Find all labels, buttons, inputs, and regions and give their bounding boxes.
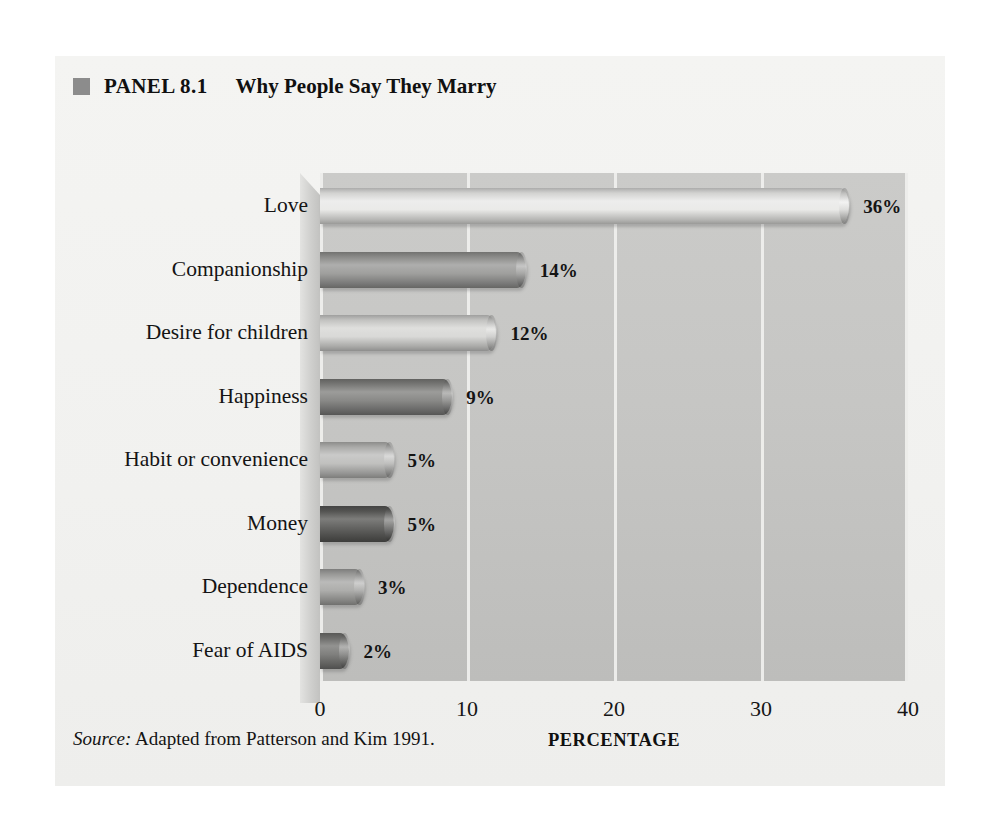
bar-category-label: Desire for children bbox=[146, 320, 308, 345]
bar-row: Habit or convenience5% bbox=[55, 442, 945, 478]
bar-row: Desire for children12% bbox=[55, 315, 945, 351]
x-tick-label: 30 bbox=[750, 696, 772, 722]
x-axis-ticks: 010203040 bbox=[55, 696, 945, 728]
bar-row: Dependence3% bbox=[55, 569, 945, 605]
x-tick-label: 0 bbox=[315, 696, 326, 722]
bar-value-label: 5% bbox=[408, 514, 437, 536]
x-tick-label: 20 bbox=[603, 696, 625, 722]
bar-category-label: Dependence bbox=[202, 574, 308, 599]
source-text: Adapted from Patterson and Kim 1991. bbox=[135, 728, 435, 749]
bars-layer: Love36%Companionship14%Desire for childr… bbox=[55, 173, 945, 681]
x-tick-label: 10 bbox=[456, 696, 478, 722]
bar-desire-for-children bbox=[320, 315, 496, 351]
bar-category-label: Companionship bbox=[172, 257, 308, 282]
bar-value-label: 3% bbox=[378, 577, 407, 599]
bar-value-label: 5% bbox=[408, 450, 437, 472]
x-tick-label: 40 bbox=[897, 696, 919, 722]
page-title: Why People Say They Marry bbox=[236, 74, 497, 99]
bar-money bbox=[320, 506, 394, 542]
bar-value-label: 14% bbox=[540, 260, 578, 282]
bar-row: Happiness9% bbox=[55, 379, 945, 415]
bar-category-label: Love bbox=[264, 193, 308, 218]
panel-header: PANEL 8.1 Why People Say They Marry bbox=[73, 74, 497, 99]
bar-value-label: 9% bbox=[466, 387, 495, 409]
panel-marker-icon bbox=[73, 78, 90, 95]
bar-category-label: Fear of AIDS bbox=[192, 638, 308, 663]
bar-habit-or-convenience bbox=[320, 442, 394, 478]
bar-companionship bbox=[320, 252, 526, 288]
panel-card: PANEL 8.1 Why People Say They Marry Love… bbox=[55, 56, 945, 786]
bar-category-label: Habit or convenience bbox=[124, 447, 308, 472]
panel-label: PANEL 8.1 bbox=[104, 74, 208, 99]
bar-category-label: Happiness bbox=[218, 384, 308, 409]
bar-row: Money5% bbox=[55, 506, 945, 542]
source-prefix: Source: bbox=[73, 728, 131, 749]
bar-love bbox=[320, 188, 849, 224]
bar-value-label: 12% bbox=[510, 323, 548, 345]
bar-fear-of-aids bbox=[320, 633, 349, 669]
source-note: Source: Adapted from Patterson and Kim 1… bbox=[73, 728, 435, 750]
bar-row: Companionship14% bbox=[55, 252, 945, 288]
bar-dependence bbox=[320, 569, 364, 605]
bar-category-label: Money bbox=[247, 511, 308, 536]
bar-row: Love36% bbox=[55, 188, 945, 224]
bar-chart: Love36%Companionship14%Desire for childr… bbox=[55, 118, 945, 718]
bar-row: Fear of AIDS2% bbox=[55, 633, 945, 669]
bar-value-label: 2% bbox=[363, 641, 392, 663]
bar-happiness bbox=[320, 379, 452, 415]
bar-value-label: 36% bbox=[863, 196, 901, 218]
